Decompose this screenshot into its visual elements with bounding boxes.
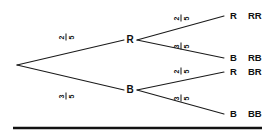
outcome-bb: BB xyxy=(248,109,262,119)
outcome-br: BR xyxy=(248,67,262,77)
node-level2-bb: B xyxy=(230,109,237,119)
outcome-rb: RB xyxy=(248,53,262,63)
probability-b-to-br-numerator: 2 xyxy=(173,65,181,79)
probability-r-to-rb-numerator: 3 xyxy=(173,40,181,54)
probability-root-to-b: 3 5 xyxy=(58,90,75,104)
probability-r-to-rb: 3 5 xyxy=(173,40,190,54)
probability-root-to-r: 2 5 xyxy=(58,31,75,45)
probability-r-to-rb-denominator: 5 xyxy=(182,40,190,54)
outcome-rr: RR xyxy=(248,11,262,21)
probability-r-to-rr: 2 5 xyxy=(173,12,190,26)
probability-root-to-b-denominator: 5 xyxy=(67,90,75,104)
probability-root-to-r-denominator: 5 xyxy=(67,31,75,45)
node-level1-b: B xyxy=(124,85,136,95)
probability-root-to-b-numerator: 3 xyxy=(58,90,66,104)
node-level2-rr: R xyxy=(230,11,237,21)
probability-tree-diagram: R B 2 5 3 5 2 5 3 5 2 5 3 5 R RR B RB R … xyxy=(0,0,278,137)
probability-root-to-r-numerator: 2 xyxy=(58,31,66,45)
probability-b-to-br: 2 5 xyxy=(173,65,190,79)
probability-b-to-bb: 3 5 xyxy=(173,92,190,106)
node-level2-br: R xyxy=(230,67,237,77)
node-level2-rb: B xyxy=(230,53,237,63)
probability-b-to-br-denominator: 5 xyxy=(182,65,190,79)
probability-r-to-rr-numerator: 2 xyxy=(173,12,181,26)
node-level1-r: R xyxy=(124,35,136,45)
branch-root-to-b xyxy=(17,65,124,90)
probability-b-to-bb-denominator: 5 xyxy=(182,92,190,106)
probability-r-to-rr-denominator: 5 xyxy=(182,12,190,26)
probability-b-to-bb-numerator: 3 xyxy=(173,92,181,106)
